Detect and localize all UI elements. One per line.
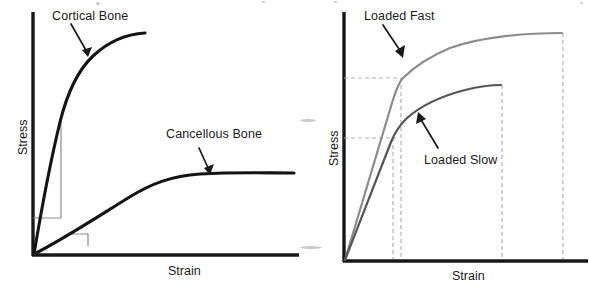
cortical-bone-arrow	[71, 24, 92, 57]
bone-types-plot	[0, 0, 300, 289]
panel-bone-types: Cortical Bone Cancellous Bone Stress Str…	[0, 0, 300, 289]
cortical-bone-label: Cortical Bone	[52, 9, 128, 23]
loaded-fast-label: Loaded Fast	[364, 9, 435, 23]
panel-loading-rate: Loaded Fast Loaded Slow Stress Strain	[300, 0, 589, 289]
loaded-slow-arrow	[416, 112, 438, 148]
cancellous-bone-curve	[34, 173, 294, 254]
loaded-fast-curve	[345, 33, 562, 260]
cancellous-bone-label: Cancellous Bone	[166, 127, 262, 141]
cancellous-slope-triangle	[69, 234, 88, 246]
x-axis-label-left: Strain	[168, 264, 201, 278]
loaded-slow-curve	[345, 85, 501, 260]
loading-rate-plot	[300, 0, 589, 289]
stress-strain-figure: Cortical Bone Cancellous Bone Stress Str…	[0, 0, 589, 289]
cancellous-bone-arrow	[199, 148, 214, 175]
x-axis-label-right: Strain	[452, 269, 485, 283]
y-axis-label-left: Stress	[16, 120, 30, 155]
loaded-fast-arrow	[383, 25, 405, 58]
loaded-slow-label: Loaded Slow	[424, 153, 497, 167]
y-axis-label-right: Stress	[327, 131, 341, 166]
